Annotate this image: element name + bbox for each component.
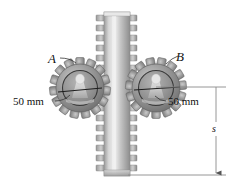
gear-a-boss [75,74,84,84]
rack-highlight [112,16,116,174]
rack-top-cap [104,12,130,16]
gear-b-label: B [176,50,184,63]
gear-rack-diagram: A B 50 mm 50 mm s [0,0,235,191]
radius-label-left: 50 mm [13,96,44,107]
gear-b-boss [151,74,160,84]
radius-label-right: 50 mm [168,96,199,107]
rack-bottom-end [104,170,130,176]
displacement-label: s [212,124,216,134]
gear-a-label: A [48,52,56,65]
